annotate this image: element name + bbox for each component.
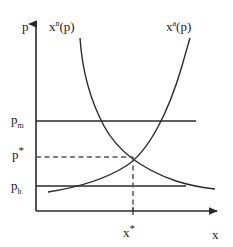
x-axis-label: x	[212, 228, 219, 241]
tick-label-ph: ph	[11, 179, 22, 192]
y-axis-label: p	[22, 20, 29, 33]
figure-canvas	[0, 0, 233, 247]
curve-xa	[48, 38, 190, 192]
curve-xn	[80, 38, 215, 189]
tick-label-xstar-asterisk: *	[130, 222, 136, 234]
tick-label-pm: pm	[11, 113, 24, 126]
tick-label-ph-subscript: h	[18, 187, 22, 196]
supply-demand-figure: p x xn(p) xa(p) pm p* ph x*	[0, 0, 233, 247]
curve-label-xa: xa(p)	[166, 20, 191, 33]
curve-label-xn: xn(p)	[49, 20, 75, 33]
tick-label-pm-subscript: m	[18, 121, 24, 130]
tick-label-pstar: p*	[12, 148, 24, 161]
tick-label-pstar-asterisk: *	[19, 144, 25, 156]
tick-label-xstar: x*	[123, 226, 135, 239]
